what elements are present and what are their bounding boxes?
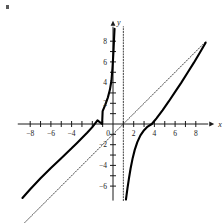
tick-label: 8 <box>194 129 198 138</box>
corner-speck-icon <box>6 5 9 9</box>
tick-label: 8 <box>103 37 107 46</box>
tick-label: −2 <box>99 140 107 149</box>
x-axis-arrow-icon <box>209 122 214 127</box>
tick-label: −4 <box>68 129 76 138</box>
y-axis-label: y <box>116 18 121 27</box>
graph-figure: −8−6−4246808642−2−4−6 x y <box>0 0 224 223</box>
tick-label: −6 <box>99 182 107 191</box>
tick-label: 2 <box>103 99 107 108</box>
tick-label: 2 <box>132 129 136 138</box>
tick-label: −4 <box>99 161 107 170</box>
tick-label: 4 <box>103 78 107 87</box>
tick-label: −6 <box>47 129 55 138</box>
tick-label: 0 <box>106 129 110 138</box>
tick-label: 4 <box>153 129 157 138</box>
function-plot: −8−6−4246808642−2−4−6 x y <box>0 0 224 223</box>
curve-right-branch <box>126 43 206 200</box>
curves-group <box>22 29 205 200</box>
tick-label: 6 <box>103 58 107 67</box>
x-axis-label: x <box>217 120 222 129</box>
axes-group <box>18 21 214 201</box>
curve-left-branch <box>22 29 114 198</box>
tick-label: 6 <box>173 129 177 138</box>
y-axis-arrow-icon <box>111 21 116 26</box>
tick-label: −8 <box>26 129 34 138</box>
